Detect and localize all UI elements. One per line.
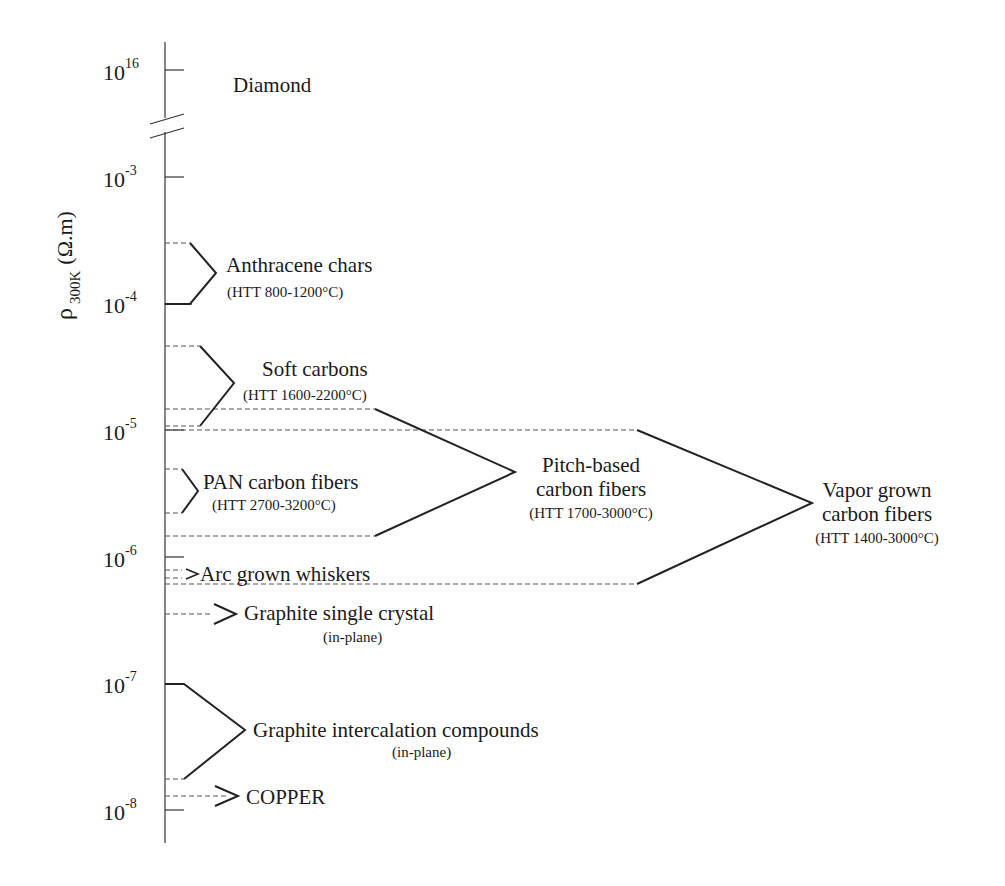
label-pitch-htt: (HTT 1700-3000°C) [529,505,653,522]
label-vapor-htt: (HTT 1400-3000°C) [815,530,939,547]
tick-1e-7: 10-7 [103,669,137,698]
tick-1e-3: 10-3 [103,163,137,192]
tick-1e-4: 10-4 [103,289,137,318]
tick-1e-5: 10-5 [103,416,137,445]
label-gic-sub: (in-plane) [392,744,451,761]
label-graphite-sc-sub: (in-plane) [323,629,382,646]
label-anthracene: Anthracene chars [226,253,372,277]
tick-labels: 1016 10-3 10-4 10-5 10-6 10-7 10-8 [103,56,139,825]
bracket-anthracene [165,243,216,304]
label-copper: COPPER [246,785,325,809]
bracket-vapor [637,430,812,584]
y-axis-label: ρ300K(Ω.m) [51,211,83,320]
arrow-arc [186,569,198,579]
label-diamond: Diamond [233,73,312,97]
label-graphite-sc: Graphite single crystal [244,601,434,625]
y-axis [150,42,192,843]
label-vapor-1: Vapor grown [822,478,932,502]
label-arc: Arc grown whiskers [200,562,370,586]
bracket-soft [200,346,234,426]
tick-1e-8: 10-8 [103,796,137,825]
label-pan: PAN carbon fibers [203,470,359,494]
label-vapor-2: carbon fibers [822,502,932,526]
tick-1e-6: 10-6 [103,543,137,572]
bracket-pitch [375,409,515,536]
label-soft-htt: (HTT 1600-2200°C) [243,387,367,404]
bracket-pan [182,469,198,513]
arrow-copper [215,786,238,806]
material-labels: Diamond Anthracene chars (HTT 800-1200°C… [200,73,939,809]
label-pan-htt: (HTT 2700-3200°C) [212,497,336,514]
bracket-gic [165,684,245,779]
svg-text:ρ300K(Ω.m): ρ300K(Ω.m) [51,211,83,320]
tick-1e16: 1016 [103,56,139,85]
arrow-graphite-sc [214,604,236,624]
resistivity-diagram: 1016 10-3 10-4 10-5 10-6 10-7 10-8 ρ300K… [0,0,1005,886]
label-pitch-2: carbon fibers [536,477,646,501]
label-pitch-1: Pitch-based [542,453,640,477]
label-soft: Soft carbons [262,357,368,381]
label-anthracene-htt: (HTT 800-1200°C) [227,284,343,301]
label-gic: Graphite intercalation compounds [253,718,539,742]
